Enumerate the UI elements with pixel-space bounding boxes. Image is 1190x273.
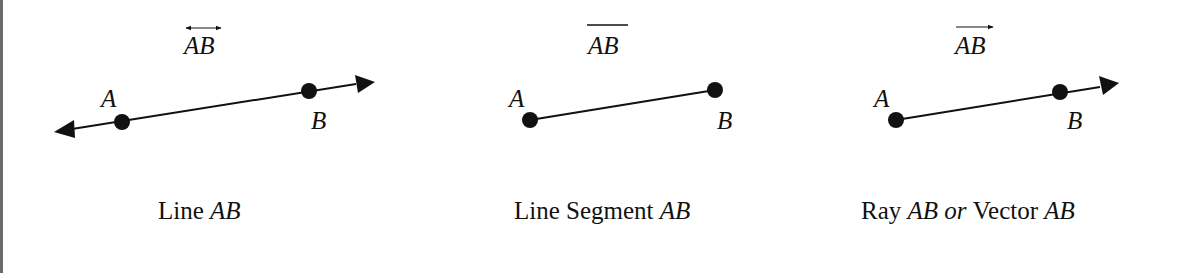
point-b: [707, 82, 723, 98]
right-arrowhead-icon: [355, 75, 375, 93]
point-a: [114, 114, 130, 130]
ray-figure: [888, 27, 1119, 128]
caption-italic: AB: [210, 197, 241, 224]
caption-italic: AB: [660, 197, 691, 224]
caption-suffix: Vector: [973, 197, 1045, 224]
ray-arrowhead-icon: [1099, 76, 1119, 95]
ray-caption: Ray AB or Vector AB: [861, 198, 1075, 223]
point-b: [1052, 84, 1068, 100]
point-a-label: A: [509, 86, 524, 111]
point-a-label: A: [874, 86, 889, 111]
caption-prefix: Ray: [861, 197, 908, 224]
segment-ab: [530, 90, 715, 120]
point-a: [888, 112, 904, 128]
point-a: [522, 112, 538, 128]
point-b: [301, 83, 317, 99]
segment-caption: Line Segment AB: [514, 198, 690, 223]
point-b-label: B: [717, 108, 732, 133]
line-caption: Line AB: [158, 198, 241, 223]
caption-italic: AB: [908, 197, 939, 224]
point-a-label: A: [101, 86, 116, 111]
caption-prefix: Line Segment: [514, 197, 660, 224]
left-arrowhead-icon: [54, 120, 75, 138]
caption-or: or: [938, 197, 973, 224]
caption-prefix: Line: [158, 197, 210, 224]
segment-notation: AB: [588, 33, 619, 58]
line-notation: AB: [184, 33, 215, 58]
point-b-label: B: [311, 108, 326, 133]
caption-italic-2: AB: [1044, 197, 1075, 224]
point-b-label: B: [1067, 108, 1082, 133]
segment-figure: [522, 25, 723, 128]
ray-notation: AB: [955, 33, 986, 58]
